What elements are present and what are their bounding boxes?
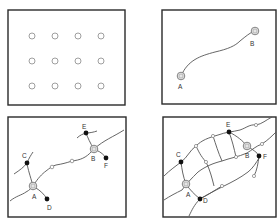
point-grid [29, 33, 104, 89]
label-d: D [203, 197, 208, 204]
node-f [104, 156, 109, 161]
road-middle [164, 132, 276, 200]
panel-frame [8, 117, 126, 217]
label-d: D [47, 204, 52, 211]
node-c [25, 161, 30, 166]
route-a-b [33, 151, 92, 186]
label-e: E [82, 123, 87, 130]
network-evolution-diagram: A B C A D E B F [0, 0, 280, 224]
node-f [257, 154, 262, 159]
label-f: F [104, 162, 108, 169]
label-b: B [91, 155, 95, 162]
panel-hubs-with-spurs: C A D E B F [8, 117, 126, 217]
label-b: B [250, 40, 254, 47]
cross-4 [206, 162, 214, 186]
spur-f [254, 156, 259, 176]
hub-b [90, 145, 98, 153]
label-f: F [263, 153, 267, 160]
hub-a [177, 72, 185, 80]
node-c [179, 160, 184, 165]
label-a: A [32, 193, 37, 200]
label-a: A [178, 83, 183, 90]
hub-b [251, 27, 259, 35]
label-e: E [226, 121, 231, 128]
node-e [84, 131, 89, 136]
label-b: B [245, 152, 249, 159]
panel-frame [163, 117, 276, 217]
panel-frame [8, 10, 125, 105]
cross-1 [196, 146, 206, 162]
panel-grid-of-points [8, 10, 125, 105]
label-c: C [176, 151, 181, 158]
hub-a [29, 182, 37, 190]
cross-2 [213, 136, 222, 161]
road-south [189, 158, 259, 216]
label-c: C [22, 152, 27, 159]
panel-single-link: A B [162, 10, 276, 104]
node-e [227, 130, 232, 135]
node-d [198, 197, 203, 202]
panel-full-network: C A D E B F [163, 117, 276, 217]
node-d [45, 197, 50, 202]
hub-b [243, 142, 251, 150]
link-a-b [181, 31, 254, 76]
route-east [94, 130, 124, 149]
hub-a [182, 180, 190, 188]
label-a: A [186, 191, 191, 198]
